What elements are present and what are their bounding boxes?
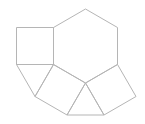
shape-hexagon-center [54,9,118,83]
shape-square-left [17,28,54,65]
shape-square-bottom-right [86,65,137,116]
geometry-figure [0,0,145,124]
shape-triangle-bottom [67,83,104,115]
shape-square-bottom-left [35,65,86,116]
shape-triangle-lower-left [17,65,54,97]
figure-canvas [0,0,145,124]
